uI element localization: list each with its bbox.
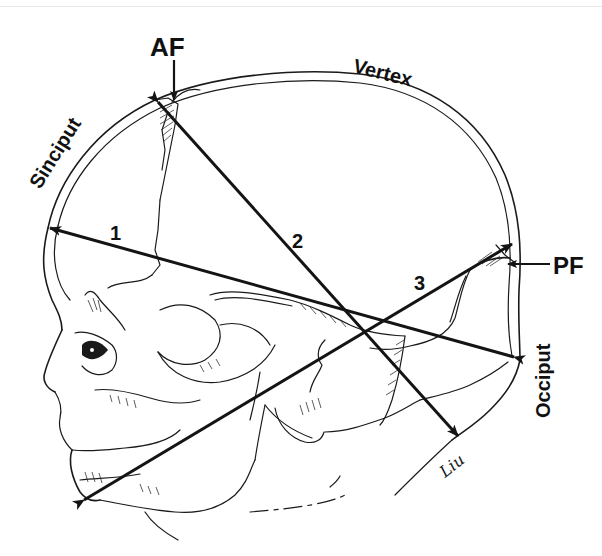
label-af: AF bbox=[150, 32, 185, 62]
artist-signature: Liu bbox=[435, 450, 468, 482]
fontanelle-pointers bbox=[174, 60, 550, 264]
label-occiput: Occiput bbox=[532, 343, 554, 418]
posterior-fontanelle-region bbox=[370, 245, 514, 349]
diameter-lines bbox=[50, 102, 514, 500]
diameter-1-line bbox=[50, 228, 514, 357]
label-diameter-1: 1 bbox=[110, 222, 121, 244]
mandible-sketch bbox=[70, 372, 345, 540]
face-sketch bbox=[44, 291, 275, 450]
label-sinciput: Sinciput bbox=[25, 113, 86, 192]
label-pf: PF bbox=[553, 252, 584, 279]
label-diameter-3: 3 bbox=[414, 272, 425, 294]
skull-diagram: AF PF Vertex Sinciput Occiput 1 2 3 Liu bbox=[0, 0, 602, 556]
frontal-suture-sketch bbox=[108, 200, 160, 288]
label-vertex: Vertex bbox=[351, 55, 415, 91]
label-diameter-2: 2 bbox=[292, 230, 303, 252]
